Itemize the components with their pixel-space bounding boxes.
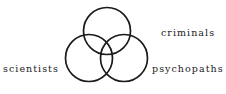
set-label-criminals: criminals [161, 28, 215, 38]
venn-diagram-canvas [0, 0, 226, 94]
left-circle [66, 35, 113, 82]
set-label-scientists: scientists [3, 64, 59, 74]
venn-diagram-figure: scientists criminals psychopaths [0, 0, 226, 94]
right-circle [101, 35, 148, 82]
top-circle [84, 8, 131, 55]
set-label-psychopaths: psychopaths [152, 64, 224, 74]
